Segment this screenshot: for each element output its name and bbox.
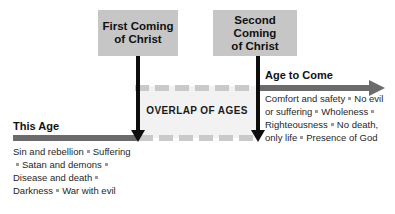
second-coming-label-line2: of Christ <box>231 40 278 52</box>
arrow-stem <box>136 56 140 132</box>
dash-segment <box>199 135 213 141</box>
arrow-stem <box>256 56 260 132</box>
overlap-dashed-bar-top <box>135 85 249 91</box>
bullet-separator-icon <box>56 189 59 192</box>
age-to-come-heading: Age to Come <box>265 69 333 81</box>
attribute-text: Suffering <box>93 146 131 157</box>
dash-segment <box>235 85 249 91</box>
bullet-separator-icon <box>87 150 90 153</box>
first-coming-box: First Coming of Christ <box>98 10 178 56</box>
bullet-separator-icon <box>16 163 19 166</box>
this-age-heading: This Age <box>13 120 59 132</box>
dash-segment <box>219 135 233 141</box>
overlap-dashed-bar-bottom <box>139 135 253 141</box>
attribute-text: Darkness <box>13 185 53 196</box>
bullet-separator-icon <box>331 123 334 126</box>
arrow-head <box>251 130 265 142</box>
attribute-text: Satan and demons <box>22 159 102 170</box>
dash-segment <box>179 135 193 141</box>
attribute-text: War with evil <box>62 185 116 196</box>
attribute-text: Comfort and safety <box>265 93 345 104</box>
bullet-separator-icon <box>300 136 303 139</box>
second-coming-label-line1: Second Coming <box>234 14 277 39</box>
dash-segment <box>175 85 189 91</box>
age-to-come-attributes: Comfort and safetyNo evil or sufferingWh… <box>265 92 385 144</box>
attribute-text: Presence of God <box>306 132 377 143</box>
dash-segment <box>155 85 169 91</box>
bullet-separator-icon <box>348 97 351 100</box>
bullet-separator-icon <box>371 110 374 113</box>
arrow-head <box>131 130 145 142</box>
bullet-separator-icon <box>105 163 108 166</box>
attribute-text: Disease and death <box>13 172 92 183</box>
attribute-text: Righteousness <box>265 119 328 130</box>
first-coming-label-line2: of Christ <box>114 33 161 45</box>
second-coming-box: Second Coming of Christ <box>213 10 297 56</box>
overlap-of-ages-diagram: OVERLAP OF AGES First Coming of Christ S… <box>0 0 395 214</box>
bullet-separator-icon <box>95 176 98 179</box>
dash-segment <box>215 85 229 91</box>
dash-segment <box>195 85 209 91</box>
age-to-come-timeline-bar <box>257 85 370 91</box>
attribute-text: Wholeness <box>321 106 368 117</box>
attribute-text: Sin and rebellion <box>13 146 84 157</box>
this-age-timeline-bar <box>13 135 137 141</box>
this-age-attributes: Sin and rebellionSufferingSatan and demo… <box>13 145 135 197</box>
first-coming-label-line1: First Coming <box>103 20 174 32</box>
overlap-of-ages-label: OVERLAP OF AGES <box>137 105 257 116</box>
bullet-separator-icon <box>315 110 318 113</box>
dash-segment <box>159 135 173 141</box>
